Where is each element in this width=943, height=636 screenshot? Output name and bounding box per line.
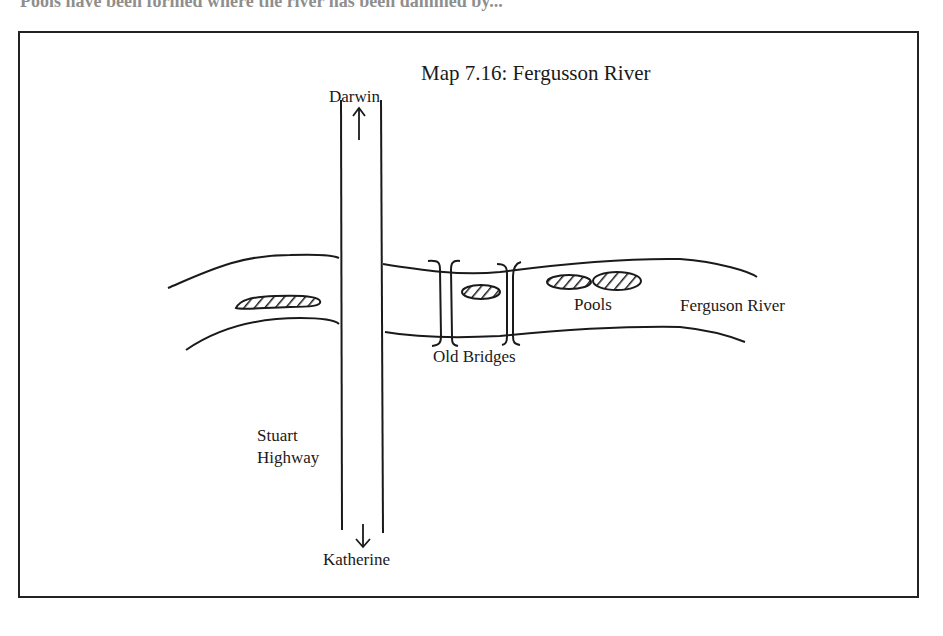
label-pools: Pools [574, 296, 612, 315]
label-old-bridges: Old Bridges [433, 348, 516, 367]
label-highway: Highway [257, 449, 319, 468]
map-title: Map 7.16: Fergusson River [421, 62, 650, 85]
highway-east-edge [381, 100, 383, 533]
river-bank-south-right [385, 327, 745, 342]
label-ferguson-river: Ferguson River [680, 297, 785, 316]
label-katherine: Katherine [323, 551, 390, 570]
sandbar-left-icon [236, 296, 320, 309]
label-darwin: Darwin [329, 88, 380, 107]
river-bank-north-left [168, 255, 339, 288]
north-arrow-icon [353, 108, 365, 140]
map-drawing [0, 0, 943, 636]
pool-icon-1 [462, 285, 500, 299]
highway-west-edge [341, 100, 342, 530]
river-bank-south-left [186, 318, 339, 350]
label-stuart: Stuart [257, 427, 298, 446]
pool-icon-3 [593, 272, 641, 290]
old-bridge-2-icon [497, 262, 521, 345]
south-arrow-icon [356, 524, 370, 547]
pool-icon-2 [547, 275, 591, 289]
